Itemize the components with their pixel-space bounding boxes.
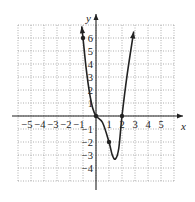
marked-point bbox=[120, 114, 124, 118]
y-axis-label: y bbox=[85, 12, 91, 24]
marked-point bbox=[94, 114, 98, 118]
marked-point bbox=[107, 140, 111, 144]
x-tick-label: −3 bbox=[47, 119, 58, 130]
y-tick-label: −4 bbox=[82, 163, 94, 174]
x-tick-label: −4 bbox=[34, 119, 46, 130]
y-tick-label: −3 bbox=[82, 150, 93, 161]
marked-point bbox=[81, 36, 85, 40]
y-tick-label: −2 bbox=[82, 137, 93, 148]
x-tick-label: 4 bbox=[145, 119, 151, 130]
y-axis-arrow-icon bbox=[94, 14, 99, 20]
y-tick-label: 5 bbox=[88, 46, 93, 57]
x-tick-label: 5 bbox=[158, 119, 163, 130]
curve-arrow-right-icon bbox=[130, 32, 135, 39]
x-axis-label: x bbox=[180, 120, 186, 132]
x-tick-label: −2 bbox=[60, 119, 71, 130]
x-axis-arrow-icon bbox=[177, 114, 183, 119]
function-graph: −5−4−3−2−112345 654321−1−2−3−4 x y bbox=[0, 0, 195, 202]
y-tick-label: −1 bbox=[82, 124, 93, 135]
x-tick-label: 3 bbox=[132, 119, 137, 130]
y-tick-label: 4 bbox=[88, 59, 94, 70]
x-tick-label: −5 bbox=[21, 119, 32, 130]
x-tick-label: 1 bbox=[106, 119, 111, 130]
axes bbox=[12, 14, 183, 190]
y-tick-label: 6 bbox=[88, 33, 93, 44]
